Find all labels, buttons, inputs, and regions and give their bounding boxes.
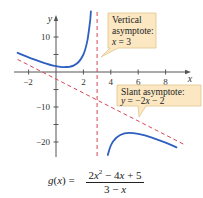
formula-numerator: 2x2 − 4x + 5 bbox=[86, 166, 144, 183]
curve-right-branch bbox=[108, 133, 177, 155]
callout-slant-line1: Slant asymptote: bbox=[121, 87, 185, 97]
x-tick-label: 4 bbox=[109, 77, 114, 87]
callout-slant-asymptote: Slant asymptote: y = −2x − 2 bbox=[117, 85, 201, 117]
callout-vertical-line1: Vertical bbox=[112, 15, 142, 25]
x-axis-label: x bbox=[187, 73, 193, 84]
x-tick-label: 2 bbox=[81, 77, 86, 87]
y-tick-label: 10 bbox=[41, 32, 51, 42]
y-axis-arrow-icon bbox=[54, 15, 58, 21]
y-tick-label: −20 bbox=[36, 137, 51, 147]
x-tick-label: −2 bbox=[23, 77, 33, 87]
y-tick-label: −10 bbox=[36, 102, 51, 112]
curve-left-branch bbox=[18, 11, 91, 67]
callout-vertical-line2: asymptote: bbox=[112, 26, 154, 36]
callout-vertical-asymptote: Vertical asymptote: x = 3 bbox=[101, 13, 156, 57]
formula-lhs: g(x) = bbox=[48, 174, 75, 186]
callout-slant-line2: y = −2x − 2 bbox=[120, 96, 165, 106]
formula-denominator: 3 − x bbox=[86, 183, 144, 196]
y-axis-label: y bbox=[47, 13, 53, 24]
function-formula: g(x) = 2x2 − 4x + 5 3 − x bbox=[40, 166, 170, 196]
callout-vertical-line3: x = 3 bbox=[111, 37, 131, 47]
formula-fraction: 2x2 − 4x + 5 3 − x bbox=[86, 166, 144, 196]
